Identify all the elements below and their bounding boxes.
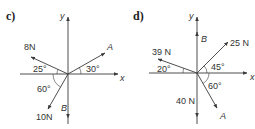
force-diagrams: c) x y 8N A 10N B 25° 30° 60° d) x xyxy=(0,0,255,129)
force-label-8n: 8N xyxy=(24,42,36,52)
force-label-39n: 39 N xyxy=(152,47,171,57)
angle-label-25: 25° xyxy=(33,64,47,74)
force-label-40n: 40 N xyxy=(176,96,195,106)
diagram-d: d) x y 39 N 25 N A 40 N B 20° 45° 60° xyxy=(133,9,255,124)
diagram-c: c) x y 8N A 10N B 25° 30° 60° xyxy=(6,9,125,124)
angle-arc-25-c xyxy=(57,69,58,74)
force-label-b-d: B xyxy=(201,34,207,44)
force-label-a-c: A xyxy=(106,42,113,52)
angle-arc-20-d xyxy=(183,68,184,73)
angle-arc-60-c xyxy=(53,74,61,87)
force-label-b-c: B xyxy=(61,103,67,113)
angle-label-60-c: 60° xyxy=(37,84,51,94)
y-axis-label-d: y xyxy=(188,11,194,21)
x-axis-label-c: x xyxy=(119,73,125,83)
y-axis-label-c: y xyxy=(59,11,65,21)
angle-label-60-d: 60° xyxy=(208,81,222,91)
x-axis-label-d: x xyxy=(249,72,255,82)
angle-label-30: 30° xyxy=(86,64,100,74)
angle-arc-30-c xyxy=(79,68,81,75)
force-label-25n: 25 N xyxy=(230,38,249,48)
part-label-d: d) xyxy=(133,9,144,23)
force-label-10n: 10N xyxy=(36,112,53,122)
force-label-a-d: A xyxy=(219,111,226,121)
angle-arc-45-d xyxy=(204,66,207,73)
angle-label-20: 20° xyxy=(157,64,171,74)
angle-label-45: 45° xyxy=(211,62,225,72)
part-label-c: c) xyxy=(6,9,15,23)
